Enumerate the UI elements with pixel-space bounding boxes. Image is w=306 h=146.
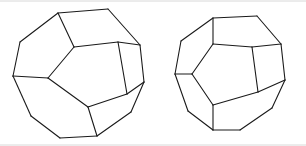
polyhedron-edge bbox=[213, 92, 258, 105]
polyhedron-edge bbox=[257, 16, 281, 44]
polyhedron-edge bbox=[13, 76, 31, 116]
polyhedron-edge bbox=[272, 80, 285, 108]
polyhedron-edge bbox=[48, 78, 88, 107]
polyhedron-edge bbox=[118, 42, 140, 45]
polyhedron-edge bbox=[252, 47, 258, 92]
polyhedra-group bbox=[13, 9, 285, 138]
polyhedron-edge bbox=[60, 136, 97, 138]
polyhedron-edge bbox=[13, 76, 48, 78]
dodecahedra-illustration bbox=[0, 0, 306, 146]
polyhedron-edge bbox=[252, 44, 281, 47]
polyhedron-edge bbox=[140, 45, 144, 82]
polyhedron-edge bbox=[175, 74, 188, 111]
polyhedron-edge bbox=[13, 42, 20, 76]
polyhedron-edge bbox=[258, 80, 285, 92]
polyhedron-edge bbox=[118, 42, 127, 94]
polyhedron-edge bbox=[213, 16, 257, 18]
polyhedron-edge bbox=[58, 9, 108, 13]
polyhedron-edge bbox=[192, 44, 213, 74]
figure-canvas bbox=[0, 0, 306, 146]
polyhedron-edge bbox=[192, 74, 213, 105]
polyhedron-edge bbox=[240, 108, 272, 130]
dodecahedron-left bbox=[13, 9, 144, 138]
polyhedron-edge bbox=[108, 9, 140, 45]
polyhedron-edge bbox=[31, 116, 60, 138]
dodecahedron-right bbox=[175, 16, 285, 130]
polyhedron-edge bbox=[20, 13, 58, 42]
polyhedron-edge bbox=[213, 44, 252, 47]
polyhedron-edge bbox=[181, 18, 213, 41]
polyhedron-edge bbox=[97, 112, 131, 136]
polyhedron-edge bbox=[175, 41, 181, 74]
polyhedron-edge bbox=[188, 111, 213, 130]
polyhedron-edge bbox=[74, 42, 118, 47]
polyhedron-edge bbox=[48, 47, 74, 78]
polyhedron-edge bbox=[88, 107, 97, 136]
polyhedron-edge bbox=[88, 94, 127, 107]
polyhedron-edge bbox=[281, 44, 285, 80]
polyhedron-edge bbox=[58, 13, 74, 47]
